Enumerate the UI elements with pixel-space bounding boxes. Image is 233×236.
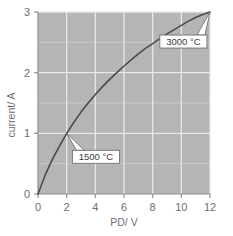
- y-axis-tick-labels: 0123: [24, 6, 30, 200]
- x-axis-title: PD/ V: [110, 216, 137, 228]
- y-tick-label: 3: [24, 6, 30, 18]
- x-tick-label: 12: [204, 201, 216, 213]
- x-axis-tick-labels: 024681012: [35, 201, 216, 213]
- y-tick-label: 2: [24, 67, 30, 79]
- x-tick-label: 2: [64, 201, 70, 213]
- y-tick-label: 1: [24, 127, 30, 139]
- x-tick-label: 10: [175, 201, 187, 213]
- x-axis-ticks: [38, 194, 210, 198]
- chart-figure: 024681012 0123 1500 °C3000 °C PD/ V curr…: [0, 0, 233, 236]
- x-tick-label: 8: [150, 201, 156, 213]
- x-tick-label: 0: [35, 201, 41, 213]
- annotation-label: 1500 °C: [79, 151, 114, 162]
- current-vs-pd-chart: 024681012 0123 1500 °C3000 °C PD/ V curr…: [0, 0, 233, 236]
- x-tick-label: 6: [121, 201, 127, 213]
- annotation-label: 3000 °C: [166, 36, 201, 47]
- y-axis-title: current/ A: [5, 93, 17, 138]
- y-tick-label: 0: [24, 188, 30, 200]
- x-tick-label: 4: [92, 201, 98, 213]
